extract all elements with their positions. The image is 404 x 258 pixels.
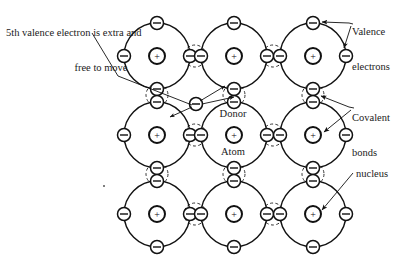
nucleus-r1c3: + xyxy=(305,48,321,64)
electron-r2c3-bottom xyxy=(307,162,320,175)
electron-r3c2-left xyxy=(195,208,208,221)
electron-r3c2-right xyxy=(261,208,274,221)
electron-r2c2-right xyxy=(261,129,274,142)
electron-r3c3-left xyxy=(274,208,287,221)
electron-r2c3-top xyxy=(307,96,320,109)
stray-dot xyxy=(103,185,105,187)
electron-r3c2-bottom xyxy=(228,241,241,254)
nucleus-r2c3: + xyxy=(305,127,321,143)
svg-text:+: + xyxy=(310,51,316,62)
nucleus-r2c2-donor: + xyxy=(226,127,242,143)
nucleus-r3c2: + xyxy=(226,206,242,222)
label-donor: Donor xyxy=(206,108,260,120)
svg-text:+: + xyxy=(231,130,237,141)
electron-r1c3-left xyxy=(274,50,287,63)
electron-r3c3-top xyxy=(307,175,320,188)
electron-r3c3-bottom xyxy=(307,241,320,254)
electron-r1c3-bottom xyxy=(307,83,320,96)
svg-text:+: + xyxy=(231,209,237,220)
electron-r2c3-left xyxy=(274,129,287,142)
electron-r2c2-bottom xyxy=(228,162,241,175)
motion-arrow-up-right xyxy=(200,86,225,101)
label-extra-electron-line1: 5th valence electron is extra and xyxy=(6,27,196,39)
leader-nucleus xyxy=(322,173,353,210)
electron-r1c3-right xyxy=(340,50,353,63)
label-nucleus: nucleus xyxy=(356,168,388,180)
motion-arrow-down-left xyxy=(170,107,192,117)
label-atom: Atom xyxy=(206,146,260,158)
electron-r3c3-right xyxy=(340,208,353,221)
label-covalent-line2: bonds xyxy=(352,147,390,159)
nucleus-r3c1: + xyxy=(149,206,165,222)
electron-r1c2-right xyxy=(261,50,274,63)
leader-valence-a xyxy=(322,22,349,23)
label-valence-line2: electrons xyxy=(352,61,390,73)
svg-text:+: + xyxy=(154,209,160,220)
leader-valence-b xyxy=(344,26,351,48)
diagram-canvas: + + + + + + + xyxy=(0,0,404,258)
electron-r3c1-top xyxy=(151,175,164,188)
label-valence-line1: Valence xyxy=(352,26,390,38)
svg-text:+: + xyxy=(231,51,237,62)
free-electron xyxy=(190,98,203,111)
electron-r2c1-left xyxy=(118,129,131,142)
electron-r2c1-top xyxy=(151,96,164,109)
electron-r3c1-bottom xyxy=(151,241,164,254)
electron-r3c1-left xyxy=(118,208,131,221)
svg-text:+: + xyxy=(154,130,160,141)
electron-r1c2-bottom xyxy=(228,83,241,96)
nucleus-r1c2: + xyxy=(226,48,242,64)
electron-r1c2-top xyxy=(228,17,241,30)
svg-text:+: + xyxy=(310,209,316,220)
electron-r2c1-bottom xyxy=(151,162,164,175)
electron-r2c3-right xyxy=(340,129,353,142)
nucleus-r2c1: + xyxy=(149,127,165,143)
electron-r2c2-left xyxy=(195,129,208,142)
electron-r1c2-left xyxy=(195,50,208,63)
svg-text:+: + xyxy=(310,130,316,141)
leader-covalent-a xyxy=(321,96,349,107)
electron-r1c3-top xyxy=(307,17,320,30)
label-valence-electrons: Valence electrons xyxy=(352,2,390,96)
nucleus-r3c3: + xyxy=(305,206,321,222)
label-extra-electron-line2: free to move xyxy=(6,62,196,74)
electron-r3c2-top xyxy=(228,175,241,188)
label-extra-electron: 5th valence electron is extra and free t… xyxy=(6,3,196,97)
label-covalent-line1: Covalent xyxy=(352,112,390,124)
